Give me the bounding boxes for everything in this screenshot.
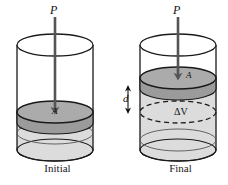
pressure-piston-diagram (0, 0, 228, 185)
panel-initial (17, 17, 93, 161)
area-label-initial: A (52, 106, 58, 116)
area-label-final: A (186, 70, 192, 80)
force-label-initial: P (50, 3, 57, 18)
force-label-final: P (173, 3, 180, 18)
caption-final: Final (133, 162, 228, 174)
caption-initial: Initial (10, 162, 105, 174)
panel-final (125, 17, 216, 161)
delta-volume-label: ΔV (174, 106, 188, 117)
distance-label-d: d (123, 92, 129, 104)
